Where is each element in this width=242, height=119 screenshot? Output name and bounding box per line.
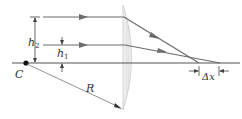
h1-label: h1 <box>57 47 69 61</box>
radius-line <box>27 64 119 107</box>
spherical-aberration-diagram: h2 h1 C R Δx <box>0 0 242 119</box>
arrow-icon <box>149 32 160 39</box>
arrow-icon <box>79 14 88 20</box>
h2-label: h2 <box>28 36 40 50</box>
delta-x-label: Δx <box>201 71 215 82</box>
center-label: C <box>15 68 24 81</box>
arrow-icon <box>79 42 88 48</box>
radius-label: R <box>85 82 94 95</box>
arrow-icon <box>114 103 122 109</box>
